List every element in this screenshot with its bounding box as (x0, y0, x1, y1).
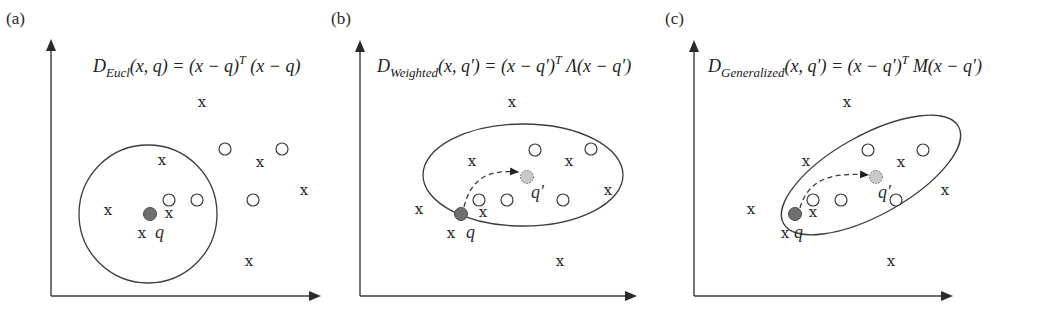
class-x-point: x (747, 200, 756, 218)
class-o-point (585, 143, 597, 155)
class-x-point: x (138, 224, 147, 242)
class-x-point: x (479, 203, 488, 221)
shifted-query-label: q′ (531, 182, 545, 202)
class-x-point: x (256, 153, 265, 171)
y-axis-arrow-icon (689, 40, 699, 52)
axes-a (46, 39, 321, 301)
class-x-point: x (104, 201, 113, 219)
class-o-points-a (163, 143, 288, 206)
x-axis-arrow-icon (625, 291, 637, 301)
class-x-point: x (565, 152, 574, 170)
class-x-point: x (165, 204, 174, 222)
class-x-point: x (158, 151, 167, 169)
class-o-point (862, 144, 874, 156)
class-o-point (191, 194, 203, 206)
class-x-point: x (468, 152, 477, 170)
panel-label-c: (c) (665, 9, 684, 28)
class-x-point: x (447, 224, 456, 242)
class-x-point: x (941, 181, 950, 199)
class-x-point: x (300, 181, 309, 199)
class-x-point: x (802, 152, 811, 170)
distance-metric-diagram: (a) DEucl(x, q) = (x − q)T (x − q) x x x (0, 0, 1054, 319)
class-o-point (917, 144, 929, 156)
class-x-points-c: x x x x x x x x (747, 93, 950, 270)
class-x-point: x (781, 224, 790, 242)
class-x-point: x (604, 181, 613, 199)
panel-label-a: (a) (6, 9, 25, 28)
panel-c: (c) DGeneralized(x, q′) = (x − q′)T M(x … (665, 9, 982, 301)
class-o-point (835, 194, 847, 206)
query-label-q: q (155, 222, 164, 242)
class-x-point: x (556, 252, 565, 270)
panel-b: (b) DWeighted(x, q′) = (x − q′)T Λ(x − q… (331, 9, 637, 301)
class-o-point (219, 143, 231, 155)
panel-a: (a) DEucl(x, q) = (x − q)T (x − q) x x x (6, 9, 321, 301)
x-axis-arrow-icon (309, 291, 321, 301)
query-label-q: q (466, 222, 475, 242)
class-x-point: x (198, 93, 207, 111)
class-x-point: x (809, 203, 818, 221)
class-x-points-b: x x x x x x x x (415, 93, 613, 270)
y-axis-arrow-icon (46, 39, 56, 51)
class-o-point (557, 194, 569, 206)
panel-label-b: (b) (331, 9, 351, 28)
class-o-point (890, 194, 902, 206)
y-axis-arrow-icon (355, 40, 365, 52)
formula-generalized: DGeneralized(x, q′) = (x − q′)T M(x − q′… (707, 53, 982, 80)
x-axis-arrow-icon (941, 291, 953, 301)
query-label-q: q (794, 222, 803, 242)
query-point-q (455, 208, 468, 221)
class-o-point (501, 194, 513, 206)
query-point-q (144, 208, 157, 221)
query-point-q (789, 208, 802, 221)
formula-weighted: DWeighted(x, q′) = (x − q′)T Λ(x − q′) (376, 53, 631, 80)
class-o-point (276, 143, 288, 155)
class-x-point: x (245, 252, 254, 270)
class-x-point: x (887, 252, 896, 270)
class-o-points-c (807, 144, 929, 206)
class-o-point (529, 144, 541, 156)
shifted-query-label: q′ (878, 182, 892, 202)
class-x-point: x (843, 93, 852, 111)
formula-euclidean: DEucl(x, q) = (x − q)T (x − q) (92, 53, 300, 80)
class-x-point: x (897, 153, 906, 171)
class-x-points-a: x x x x x x x x (104, 93, 309, 270)
class-o-point (247, 194, 259, 206)
class-x-point: x (415, 200, 424, 218)
class-x-point: x (508, 93, 517, 111)
